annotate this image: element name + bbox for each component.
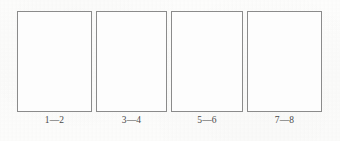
panel-box-3 [171,11,243,112]
panel-group-4: 7—8 [247,11,322,112]
figure-canvas: 1—2 3—4 5—6 7—8 [0,0,340,141]
panel-group-1: 1—2 [17,11,92,112]
panel-box-2 [96,11,167,112]
panel-box-1 [17,11,92,112]
panel-caption-4: 7—8 [247,114,322,127]
panel-group-2: 3—4 [96,11,167,112]
panel-caption-2: 3—4 [96,114,167,127]
panel-caption-1: 1—2 [17,114,92,127]
panel-caption-3: 5—6 [171,114,243,127]
panel-group-3: 5—6 [171,11,243,112]
panel-row: 1—2 3—4 5—6 7—8 [0,0,340,141]
panel-box-4 [247,11,322,112]
